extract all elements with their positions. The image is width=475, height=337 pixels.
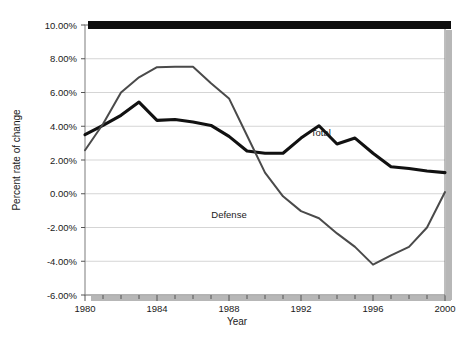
series-label-defense: Defense	[211, 209, 246, 220]
y-axis-ticks	[81, 25, 85, 295]
y-tick-label: 8.00%	[50, 53, 77, 64]
x-tick-label: 1992	[290, 303, 311, 314]
y-axis-tick-labels: 10.00%8.00%6.00%4.00%2.00%0.00%-2.00%-4.…	[45, 20, 78, 301]
x-tick-label: 1996	[362, 303, 383, 314]
y-tick-label: 4.00%	[50, 121, 77, 132]
x-tick-label: 1988	[218, 303, 239, 314]
y-tick-label: 6.00%	[50, 87, 77, 98]
x-tick-label: 1980	[74, 303, 95, 314]
y-tick-label: -4.00%	[47, 256, 78, 267]
x-axis-title: Year	[227, 316, 248, 327]
y-tick-label: 2.00%	[50, 155, 77, 166]
x-tick-label: 1984	[146, 303, 167, 314]
y-tick-label: -2.00%	[47, 222, 78, 233]
y-tick-label: 10.00%	[45, 20, 78, 31]
y-tick-label: 0.00%	[50, 188, 77, 199]
chart-container: 10.00%8.00%6.00%4.00%2.00%0.00%-2.00%-4.…	[0, 0, 475, 337]
x-tick-label: 2000	[434, 303, 455, 314]
y-axis-title: Percent rate of change	[11, 109, 22, 211]
x-axis-tick-labels: 198019841988199219962000	[74, 303, 455, 314]
y-tick-label: -6.00%	[47, 290, 78, 301]
series-label-total: Total	[311, 127, 331, 138]
top-accent-bar	[88, 21, 451, 29]
line-chart: 10.00%8.00%6.00%4.00%2.00%0.00%-2.00%-4.…	[0, 0, 475, 337]
